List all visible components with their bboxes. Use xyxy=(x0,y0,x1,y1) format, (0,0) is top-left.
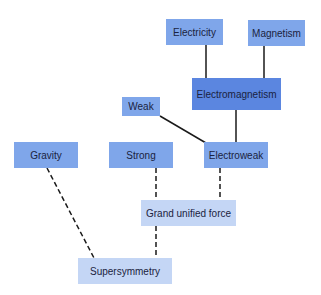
node-electricity: Electricity xyxy=(166,19,223,45)
node-weak: Weak xyxy=(122,97,160,116)
node-label: Gravity xyxy=(30,150,62,161)
node-label: Electromagnetism xyxy=(196,89,276,100)
node-label: Supersymmetry xyxy=(90,266,160,277)
node-magnetism: Magnetism xyxy=(248,20,305,46)
node-gravity: Gravity xyxy=(14,142,78,168)
node-label: Electricity xyxy=(173,27,216,38)
node-supersymmetry: Supersymmetry xyxy=(78,258,172,284)
node-label: Grand unified force xyxy=(146,208,231,219)
link-weak-electroweak xyxy=(160,116,206,143)
node-electroweak: Electroweak xyxy=(204,142,268,168)
node-label: Strong xyxy=(126,150,155,161)
link-gravity-supersymmetry xyxy=(47,168,94,258)
node-label: Electroweak xyxy=(209,150,263,161)
node-label: Weak xyxy=(128,101,153,112)
node-label: Magnetism xyxy=(252,28,301,39)
node-strong: Strong xyxy=(109,142,173,168)
node-electromagnetism: Electromagnetism xyxy=(192,78,281,110)
node-guf: Grand unified force xyxy=(141,200,236,226)
